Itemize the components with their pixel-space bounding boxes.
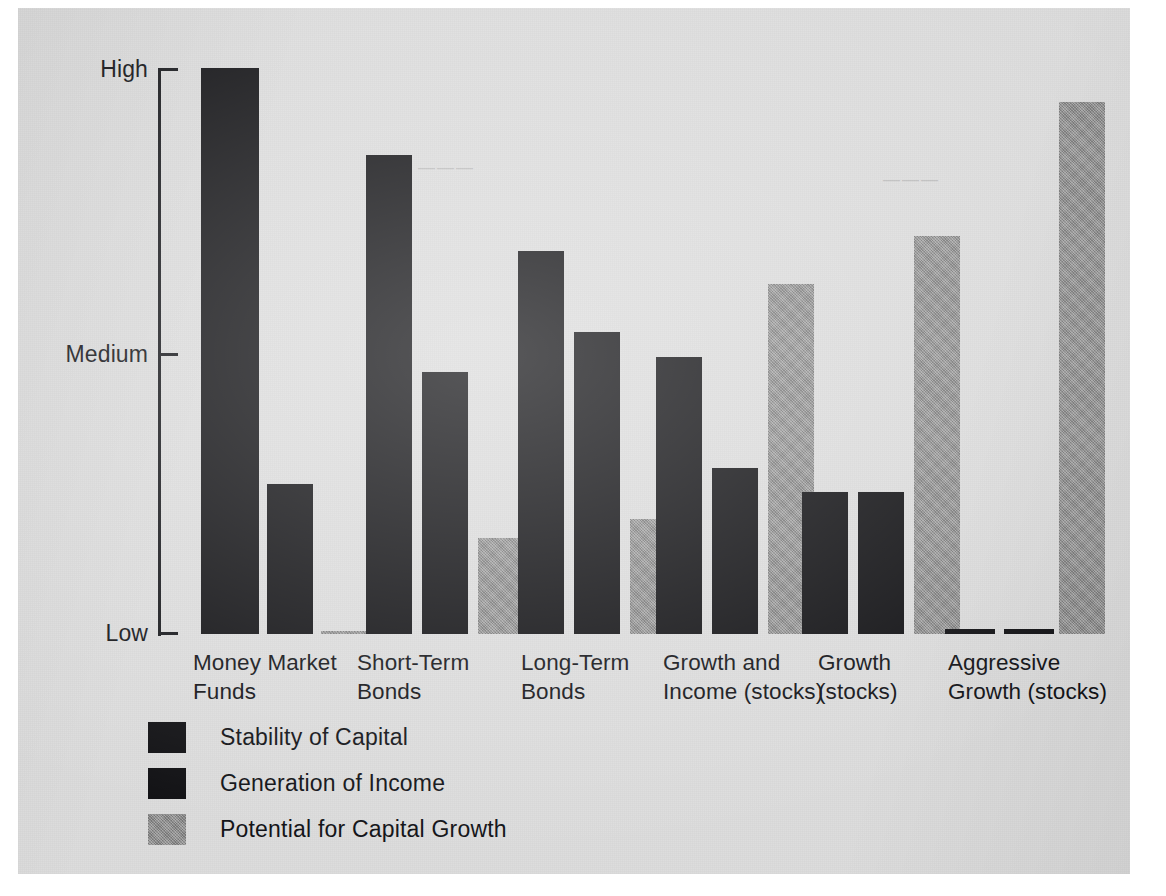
bar-long-term-bonds-stability (518, 251, 564, 634)
legend-label-stability: Stability of Capital (220, 724, 408, 751)
category-label-aggressive-growth: Aggressive Growth (stocks) (948, 648, 1107, 706)
bars-layer (18, 8, 1130, 634)
legend-label-income: Generation of Income (220, 770, 445, 797)
legend-swatch-icon-stability (148, 722, 186, 753)
bar-aggressive-growth-growth (1059, 102, 1105, 634)
legend-item-generation-of-income: Generation of Income (148, 760, 507, 806)
category-label-short-term-bonds: Short-Term Bonds (357, 648, 469, 706)
chart-panel: ——— ——— High Medium Low (18, 8, 1130, 874)
category-label-growth-and-income: Growth and Income (stocks) (663, 648, 823, 706)
category-label-long-term-bonds: Long-Term Bonds (521, 648, 629, 706)
bar-growth-stability (802, 492, 848, 634)
bar-short-term-bonds-income (422, 372, 468, 634)
page-canvas: ——— ——— High Medium Low (0, 0, 1166, 896)
legend-swatch-icon-income (148, 768, 186, 799)
bar-short-term-bonds-stability (366, 155, 412, 634)
category-label-money-market-funds: Money Market Funds (193, 648, 337, 706)
bar-growth-income (858, 492, 904, 634)
legend-item-stability-of-capital: Stability of Capital (148, 714, 507, 760)
chart-legend: Stability of Capital Generation of Incom… (148, 714, 507, 852)
bar-growth-and-income-income (712, 468, 758, 634)
bar-growth-growth (914, 236, 960, 634)
bar-aggressive-growth-income (1004, 629, 1054, 634)
bar-long-term-bonds-income (574, 332, 620, 634)
bar-money-market-funds-income (267, 484, 313, 634)
bar-money-market-funds-stability (201, 68, 259, 634)
legend-item-potential-for-capital-growth: Potential for Capital Growth (148, 806, 507, 852)
legend-label-growth: Potential for Capital Growth (220, 816, 507, 843)
bar-aggressive-growth-stability (945, 629, 995, 634)
category-label-growth: Growth (stocks) (818, 648, 898, 706)
bar-growth-and-income-stability (656, 357, 702, 634)
legend-swatch-icon-growth (148, 814, 186, 845)
